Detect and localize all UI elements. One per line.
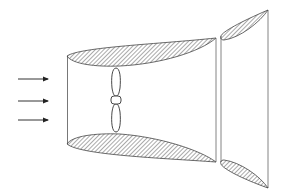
- diagram-canvas: Ducted propeller with diffuser (wind tur…: [0, 0, 284, 196]
- propeller-blade-top: [112, 68, 121, 96]
- diffuser-ring: [221, 10, 268, 188]
- main-duct: [67, 38, 216, 162]
- top-diffuser-airfoil: [221, 10, 268, 40]
- propeller-icon: [111, 68, 121, 132]
- bottom-diffuser-airfoil: [221, 160, 268, 188]
- propeller-blade-bottom: [112, 104, 121, 132]
- propeller-hub: [111, 96, 121, 104]
- inflow-arrows: [18, 79, 48, 120]
- duct-diagram: [0, 0, 284, 196]
- bottom-duct-airfoil: [67, 134, 216, 162]
- top-duct-airfoil: [67, 38, 216, 66]
